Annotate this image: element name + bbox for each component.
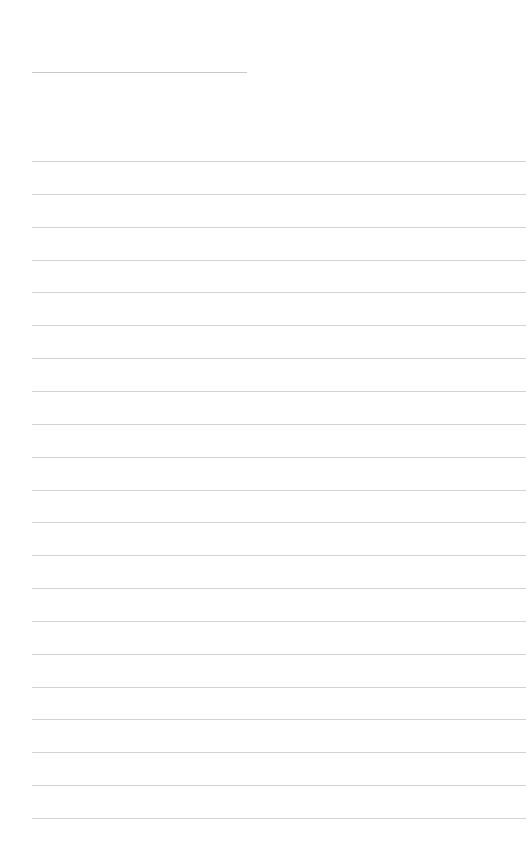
ruled-line: [32, 292, 526, 293]
ruled-line: [32, 227, 526, 228]
lined-paper-page: [0, 0, 531, 866]
ruled-line: [32, 785, 526, 786]
ruled-line: [32, 358, 526, 359]
title-write-line: [32, 72, 247, 73]
ruled-line: [32, 687, 526, 688]
ruled-line: [32, 194, 526, 195]
ruled-line: [32, 719, 526, 720]
ruled-line: [32, 555, 526, 556]
ruled-line: [32, 621, 526, 622]
ruled-line: [32, 588, 526, 589]
ruled-line: [32, 490, 526, 491]
ruled-line: [32, 752, 526, 753]
ruled-line: [32, 522, 526, 523]
ruled-line: [32, 161, 526, 162]
ruled-line: [32, 424, 526, 425]
ruled-line: [32, 457, 526, 458]
ruled-line: [32, 391, 526, 392]
ruled-line: [32, 654, 526, 655]
ruled-line: [32, 818, 526, 819]
ruled-line: [32, 260, 526, 261]
ruled-line: [32, 325, 526, 326]
